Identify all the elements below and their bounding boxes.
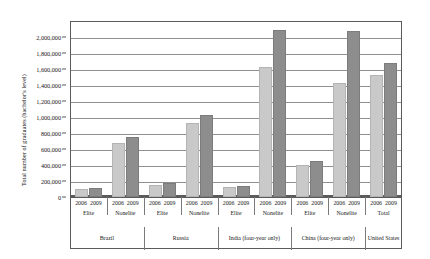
y-axis-tick-label: 1,400,000 [36, 82, 61, 89]
y-axis-tick-label: 2,000,000 [36, 34, 61, 41]
y-axis-tick-mark [62, 69, 66, 70]
y-axis-tick-label: 800,000 [41, 130, 61, 137]
gridline [71, 118, 401, 119]
x-axis-tier-label: Nonelite [328, 206, 365, 216]
y-axis-tick-label: 1,600,000 [36, 66, 61, 73]
x-axis-year-label: 2009 [164, 200, 176, 206]
x-axis-year-row: 20062009 [254, 197, 291, 206]
gridline [71, 54, 401, 55]
x-axis-separator [254, 197, 255, 215]
x-axis-year-row: 20062009 [181, 197, 218, 206]
y-axis-tick-mark [62, 181, 66, 182]
y-axis-tick-mark [62, 149, 66, 150]
x-axis-separator [181, 197, 182, 215]
gridline [71, 134, 401, 135]
x-axis-year-label: 2009 [311, 200, 323, 206]
x-axis-tier-label: Nonelite [107, 206, 144, 216]
x-axis-year-label: 2009 [385, 200, 397, 206]
y-axis-tick-label: 1,800,000 [36, 50, 61, 57]
x-axis-year-row: 20062009 [328, 197, 365, 206]
x-axis-tier-label: Nonelite [254, 206, 291, 216]
x-axis-country-separator [291, 227, 292, 250]
x-axis-year-label: 2006 [297, 200, 309, 206]
x-axis-tier-label: Nonelite [181, 206, 218, 216]
gridline [71, 150, 401, 151]
x-axis-tier-label: Total [365, 206, 402, 216]
x-axis-country-separator [144, 227, 145, 250]
x-axis-separator [365, 197, 366, 215]
y-axis-tick-label: 1,000,000 [36, 114, 61, 121]
gridline [71, 102, 401, 103]
baseline [71, 195, 401, 196]
y-axis-tick-mark [62, 101, 66, 102]
y-axis-tick-mark [62, 197, 66, 198]
gridline [71, 70, 401, 71]
x-axis-year-row: 20062009 [144, 197, 181, 206]
gridline [71, 166, 401, 167]
y-axis-tick-mark [62, 53, 66, 54]
y-axis-tick-mark [62, 37, 66, 38]
x-axis-country-label: India (four-year only) [218, 231, 292, 249]
y-axis-tick-label: 400,000 [41, 162, 61, 169]
gridline [71, 182, 401, 183]
y-axis-tick-mark [62, 133, 66, 134]
x-axis-year-label: 2009 [90, 200, 102, 206]
x-axis-year-label: 2006 [186, 200, 198, 206]
x-axis-tier-label: Elite [70, 206, 107, 216]
x-axis-tier-label: Elite [144, 206, 181, 216]
x-axis-year-row: 20062009 [291, 197, 328, 206]
x-axis-year-label: 2006 [149, 200, 161, 206]
y-axis-tick-mark [62, 165, 66, 166]
x-axis-country-separator [218, 227, 219, 250]
x-axis-year-label: 2009 [348, 200, 360, 206]
y-axis-tick-label: 1,200,000 [36, 98, 61, 105]
x-axis-country-bands: BrazilRussiaIndia (four-year only)China … [70, 231, 402, 249]
x-axis-year-label: 2009 [127, 200, 139, 206]
gridline [71, 38, 401, 39]
x-axis-year-label: 2006 [75, 200, 87, 206]
x-axis-year-row: 20062009 [365, 197, 402, 206]
x-axis-separator [328, 197, 329, 215]
x-axis-country-label: United States [365, 231, 402, 249]
y-axis-tick-labels: 2,000,0001,800,0001,600,0001,400,0001,20… [0, 21, 66, 197]
plot-area [70, 21, 402, 197]
y-axis-tick-mark [62, 85, 66, 86]
x-axis-year-label: 2006 [260, 200, 272, 206]
x-axis-separator [218, 197, 219, 215]
x-axis-year-label: 2009 [274, 200, 286, 206]
y-axis-tick-mark [62, 117, 66, 118]
x-axis-tier-label: Elite [218, 206, 255, 216]
x-axis-tier-label: Elite [291, 206, 328, 216]
x-axis-year-label: 2009 [238, 200, 250, 206]
x-axis-country-label: Russia [144, 231, 218, 249]
y-axis-tick-label: 600,000 [41, 146, 61, 153]
y-axis-tick-label: 200,000 [41, 178, 61, 185]
x-axis-country-separator [365, 227, 366, 250]
x-axis-year-row: 20062009 [70, 197, 107, 206]
x-axis-year-label: 2006 [333, 200, 345, 206]
x-axis-year-label: 2006 [112, 200, 124, 206]
x-axis-separator [291, 197, 292, 215]
x-axis-separator [144, 197, 145, 215]
gridline [71, 86, 401, 87]
bar-chart: Total number of graduates (bachelor's le… [0, 0, 430, 259]
x-axis-separator [107, 197, 108, 215]
x-axis-year-row: 20062009 [107, 197, 144, 206]
x-axis-year-row: 20062009 [218, 197, 255, 206]
x-axis-country-label: Brazil [70, 231, 144, 249]
x-axis-year-label: 2009 [201, 200, 213, 206]
y-axis-tick-label: 0 [58, 194, 61, 201]
x-axis-year-label: 2006 [370, 200, 382, 206]
x-axis-year-label: 2006 [223, 200, 235, 206]
x-axis-country-label: China (four-year only) [291, 231, 365, 249]
